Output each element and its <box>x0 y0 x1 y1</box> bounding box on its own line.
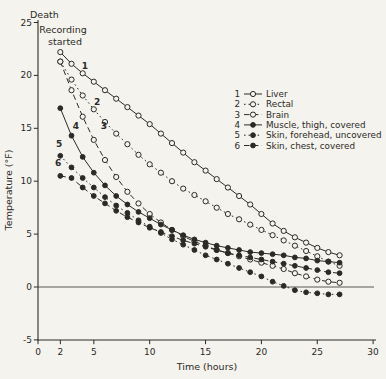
data-point-marker <box>136 113 141 118</box>
data-point-marker <box>315 258 320 263</box>
data-point-marker <box>69 165 74 170</box>
legend-label-liver: Liver <box>266 89 288 99</box>
data-point-marker <box>69 88 74 93</box>
data-point-marker <box>80 114 85 119</box>
data-point-marker <box>192 248 197 253</box>
x-tick-label: 25 <box>312 347 323 357</box>
data-point-marker <box>225 211 230 216</box>
data-point-marker <box>80 155 85 160</box>
recording-started-annotation: Recording <box>39 24 87 35</box>
data-point-marker <box>203 253 208 258</box>
data-point-marker <box>214 177 219 182</box>
legend-marker-skin-forehead-uncovered <box>251 133 256 138</box>
y-tick-label: 5 <box>26 229 32 239</box>
data-point-marker <box>69 133 74 138</box>
brain-markers <box>58 59 343 285</box>
data-point-marker <box>91 79 96 84</box>
data-point-marker <box>337 253 342 258</box>
legend-item-liver: 1Liver <box>234 89 288 99</box>
data-point-marker <box>80 93 85 98</box>
data-point-marker <box>337 292 342 297</box>
data-point-marker <box>114 174 119 179</box>
rectal-line <box>60 62 339 266</box>
data-point-marker <box>326 279 331 284</box>
data-point-marker <box>58 106 63 111</box>
data-point-marker <box>125 215 130 220</box>
data-point-marker <box>125 105 130 110</box>
legend-item-skin-chest-covered: 6Skin, chest, covered <box>234 141 355 151</box>
data-point-marker <box>136 220 141 225</box>
data-point-marker <box>147 225 152 230</box>
y-tick-label: 20 <box>21 70 33 80</box>
data-point-marker <box>337 271 342 276</box>
data-point-marker <box>136 210 141 215</box>
axes <box>38 20 377 341</box>
data-point-marker <box>226 246 231 251</box>
data-point-marker <box>58 59 63 64</box>
data-point-marker <box>91 107 96 112</box>
legend-index-muscle-thigh-covered: 4 <box>234 120 240 130</box>
data-point-marker <box>69 176 74 181</box>
legend-label-skin-chest-covered: Skin, chest, covered <box>266 141 355 151</box>
data-point-marker <box>69 61 74 66</box>
liver-line <box>60 52 339 255</box>
data-point-marker <box>326 292 331 297</box>
data-point-marker <box>304 266 309 271</box>
data-point-marker <box>281 238 286 243</box>
legend-marker-liver <box>250 91 255 96</box>
data-point-marker <box>270 279 275 284</box>
legend-item-rectal: 2Rectal <box>234 99 293 109</box>
data-point-marker <box>281 284 286 289</box>
curve-label-skin-chest-covered: 6 <box>55 158 61 168</box>
data-point-marker <box>281 266 286 271</box>
legend-marker-brain <box>250 112 255 117</box>
data-point-marker <box>80 185 85 190</box>
data-point-marker <box>91 137 96 142</box>
data-point-marker <box>102 157 107 162</box>
legend-marker-muscle-thigh-covered <box>251 123 256 128</box>
data-point-marker <box>248 202 253 207</box>
y-axis-label: Temperature (°F) <box>3 150 14 232</box>
legend-label-skin-forehead-uncovered: Skin, forehead, uncovered <box>266 130 382 140</box>
data-point-marker <box>214 257 219 262</box>
data-point-marker <box>270 233 275 238</box>
data-point-marker <box>259 257 264 262</box>
data-point-marker <box>304 290 309 295</box>
data-point-marker <box>203 244 208 249</box>
data-point-marker <box>159 222 164 227</box>
data-point-marker <box>326 250 331 255</box>
data-point-marker <box>192 192 197 197</box>
recording-started-annotation: started <box>48 36 82 47</box>
legend-label-brain: Brain <box>266 110 289 120</box>
data-point-marker <box>259 211 264 216</box>
data-point-marker <box>181 150 186 155</box>
data-point-marker <box>158 131 163 136</box>
legend-index-skin-forehead-uncovered: 5 <box>234 130 240 140</box>
data-point-marker <box>237 253 242 258</box>
data-point-marker <box>270 252 275 257</box>
data-point-marker <box>58 174 63 179</box>
data-point-marker <box>337 260 342 265</box>
data-point-marker <box>304 248 309 253</box>
data-point-marker <box>326 259 331 264</box>
curve-label-skin-forehead-uncovered: 5 <box>56 139 62 149</box>
data-point-marker <box>292 271 297 276</box>
data-point-marker <box>248 255 253 260</box>
data-point-marker <box>136 201 141 206</box>
data-point-marker <box>91 194 96 199</box>
data-point-marker <box>125 189 130 194</box>
data-point-marker <box>248 270 253 275</box>
data-point-marker <box>292 243 297 248</box>
data-point-marker <box>237 266 242 271</box>
data-point-marker <box>114 203 119 208</box>
data-point-marker <box>114 208 119 213</box>
legend-label-rectal: Rectal <box>266 99 293 109</box>
data-point-marker <box>159 230 164 235</box>
legend: 1Liver2Rectal3Brain4Muscle, thigh, cover… <box>234 89 381 151</box>
data-point-marker <box>225 185 230 190</box>
data-point-marker <box>259 227 264 232</box>
legend-index-liver: 1 <box>234 89 240 99</box>
data-point-marker <box>170 228 175 233</box>
data-point-marker <box>69 77 74 82</box>
death-label: Death <box>30 9 59 20</box>
